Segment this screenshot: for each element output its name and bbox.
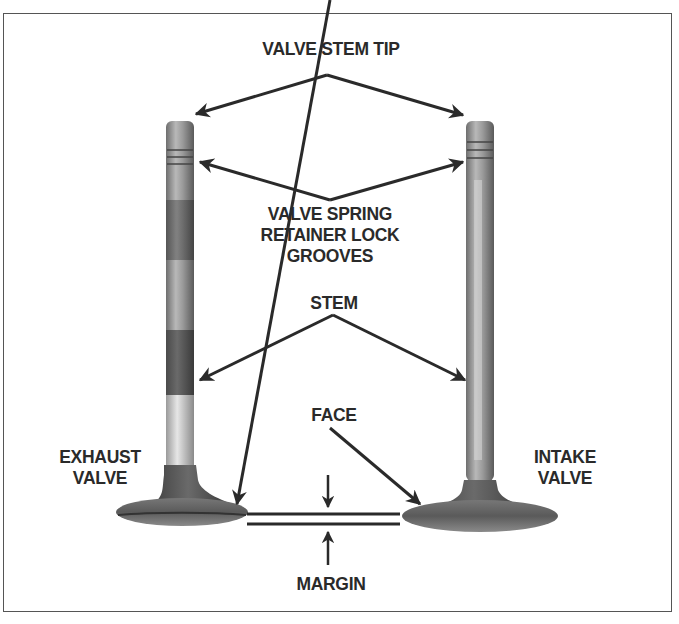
label-retainer-line1: VALVE SPRING	[238, 203, 422, 224]
label-intake-line1: INTAKE	[519, 446, 611, 467]
label-valve-stem-tip: VALVE STEM TIP	[244, 38, 419, 59]
label-stem: STEM	[297, 292, 371, 313]
label-retainer-line3: GROOVES	[238, 245, 422, 266]
margin-indicator	[247, 475, 400, 565]
label-exhaust-valve: EXHAUST VALVE	[45, 446, 155, 488]
label-face: FACE	[297, 404, 371, 425]
label-retainer-line2: RETAINER LOCK	[238, 224, 422, 245]
label-exhaust-line1: EXHAUST	[45, 446, 155, 467]
label-exhaust-line2: VALVE	[45, 467, 155, 488]
label-retainer-grooves: VALVE SPRING RETAINER LOCK GROOVES	[238, 203, 422, 266]
label-margin: MARGIN	[280, 573, 381, 594]
label-intake-valve: INTAKE VALVE	[519, 446, 611, 488]
label-intake-line2: VALVE	[519, 467, 611, 488]
arrows-stem	[200, 315, 465, 380]
arrows-retainer-grooves	[200, 162, 463, 200]
arrows-valve-stem-tip	[196, 75, 463, 115]
